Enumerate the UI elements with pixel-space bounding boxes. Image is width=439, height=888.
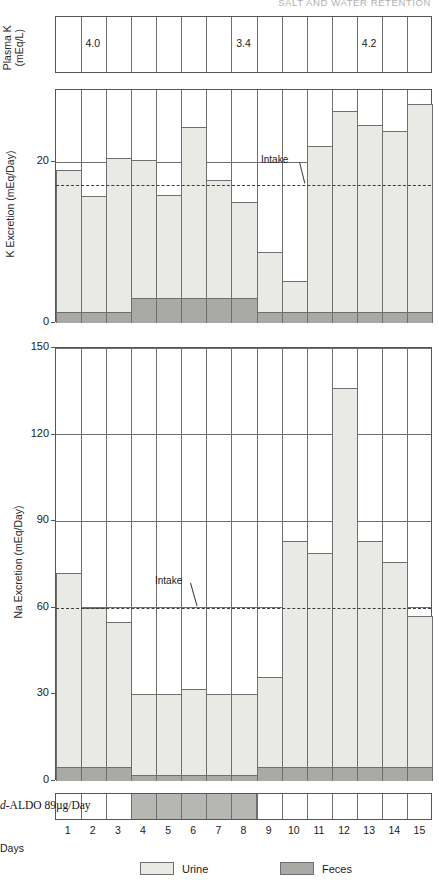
grid-column xyxy=(332,794,333,819)
intake-line xyxy=(56,608,431,609)
y-tick-mark xyxy=(51,434,55,435)
treatment-label-rest: -ALDO 89µg/Day xyxy=(6,799,91,811)
bar-feces xyxy=(231,298,257,323)
day-tick-label: 8 xyxy=(231,824,256,836)
day-tick-label: 1 xyxy=(55,824,80,836)
legend-swatch-urine xyxy=(140,862,174,875)
intake-label: Intake xyxy=(155,575,182,586)
bar-urine xyxy=(332,388,358,766)
na-excretion-plot xyxy=(55,347,432,780)
plasma-k-axis-title-line1: Plasma K xyxy=(1,25,13,70)
treatment-strip xyxy=(55,793,432,820)
bar-feces xyxy=(156,298,182,323)
bar-feces xyxy=(382,312,408,323)
bar-urine xyxy=(282,541,308,766)
bar-feces xyxy=(81,312,107,323)
bar-urine xyxy=(181,689,207,776)
bar-feces xyxy=(282,767,308,781)
bar-feces xyxy=(282,312,308,323)
bar-feces xyxy=(357,312,383,323)
bar-feces xyxy=(131,298,157,323)
running-head: SALT AND WATER RETENTION xyxy=(0,0,431,8)
legend-swatch-feces xyxy=(280,862,314,875)
day-tick-label: 12 xyxy=(331,824,356,836)
intake-label: Intake xyxy=(261,154,288,165)
k-excretion-plot xyxy=(55,89,432,322)
bar-urine xyxy=(307,146,333,312)
bar-feces xyxy=(131,775,157,781)
grid-column xyxy=(332,17,333,72)
day-tick-label: 3 xyxy=(105,824,130,836)
grid-column xyxy=(231,794,232,819)
grid-column xyxy=(257,794,258,819)
grid-line xyxy=(56,521,431,522)
bar-urine xyxy=(382,562,408,767)
grid-line xyxy=(56,348,431,349)
bar-urine xyxy=(206,180,232,298)
bar-feces xyxy=(231,775,257,781)
treatment-band xyxy=(131,794,257,819)
y-tick-label: 30 xyxy=(0,686,49,698)
bar-urine xyxy=(81,196,107,312)
grid-column xyxy=(282,17,283,72)
grid-column xyxy=(156,794,157,819)
bar-feces xyxy=(106,312,132,323)
bar-urine xyxy=(181,127,207,298)
bar-feces xyxy=(332,767,358,781)
y-tick-label: 0 xyxy=(0,315,49,327)
bar-feces xyxy=(106,767,132,781)
day-tick-label: 15 xyxy=(407,824,432,836)
bar-feces xyxy=(357,767,383,781)
y-tick-mark xyxy=(51,693,55,694)
day-tick-label: 9 xyxy=(256,824,281,836)
y-tick-label: 150 xyxy=(0,340,49,352)
grid-column xyxy=(131,17,132,72)
day-tick-label: 7 xyxy=(206,824,231,836)
bar-feces xyxy=(332,312,358,323)
legend-label-urine: Urine xyxy=(182,863,208,875)
k-excretion-axis-title: K Excretion (mEq/Day) xyxy=(4,120,16,288)
bar-feces xyxy=(56,767,82,781)
grid-column xyxy=(282,794,283,819)
bar-urine xyxy=(81,608,107,767)
bar-urine xyxy=(382,131,408,312)
figure-page: SALT AND WATER RETENTION Plasma K (mEq/L… xyxy=(0,0,439,888)
day-tick-label: 2 xyxy=(80,824,105,836)
day-tick-label: 11 xyxy=(306,824,331,836)
grid-column xyxy=(307,17,308,72)
bar-urine xyxy=(407,616,433,766)
bar-feces xyxy=(206,298,232,323)
y-tick-mark xyxy=(51,607,55,608)
bar-urine xyxy=(357,541,383,766)
legend: UrineFeces xyxy=(0,862,439,882)
legend-item-urine: Urine xyxy=(140,862,208,875)
grid-column xyxy=(181,17,182,72)
plasma-k-value: 4.0 xyxy=(80,37,105,49)
y-tick-mark xyxy=(51,161,55,162)
bar-feces xyxy=(382,767,408,781)
bar-urine xyxy=(106,622,132,766)
grid-line xyxy=(56,434,431,435)
bar-urine xyxy=(131,160,157,298)
grid-column xyxy=(257,17,258,72)
day-tick-label: 10 xyxy=(281,824,306,836)
grid-column xyxy=(382,794,383,819)
grid-column xyxy=(206,17,207,72)
plasma-k-axis-title: Plasma K (mEq/L) xyxy=(2,11,26,83)
legend-item-feces: Feces xyxy=(280,862,352,875)
y-tick-mark xyxy=(51,347,55,348)
intake-line xyxy=(56,185,431,186)
bar-feces xyxy=(407,312,433,323)
bar-urine xyxy=(307,553,333,767)
bar-urine xyxy=(257,677,283,766)
grid-column xyxy=(307,794,308,819)
bar-feces xyxy=(257,767,283,781)
grid-column xyxy=(382,17,383,72)
bar-urine xyxy=(56,573,82,766)
bar-urine xyxy=(407,104,433,311)
y-tick-mark xyxy=(51,780,55,781)
grid-column xyxy=(181,794,182,819)
bar-urine xyxy=(231,202,257,298)
y-tick-mark xyxy=(51,520,55,521)
bar-feces xyxy=(181,775,207,781)
